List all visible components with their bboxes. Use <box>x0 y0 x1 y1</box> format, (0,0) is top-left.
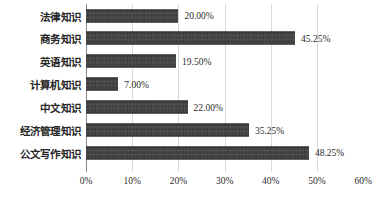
category-label: 英语知识 <box>40 54 81 69</box>
bar: 48.25% <box>86 146 309 159</box>
x-axis: 0% 10% 20% 30% 40% 50% 60% <box>0 176 384 192</box>
bar-value-label: 45.25% <box>301 33 330 43</box>
bar-row: 计算机知识 7.00% <box>86 73 384 96</box>
bar-value-label: 19.50% <box>182 56 211 66</box>
x-tick-label: 30% <box>216 176 233 186</box>
category-label: 商务知识 <box>40 31 81 46</box>
bar: 19.50% <box>86 55 176 68</box>
bar: 7.00% <box>86 78 118 91</box>
bar: 22.00% <box>86 101 188 114</box>
bar: 45.25% <box>86 32 295 45</box>
bar-value-label: 35.25% <box>255 125 284 135</box>
category-label: 经济管理知识 <box>20 123 81 138</box>
bar-row: 经济管理知识 35.25% <box>86 119 384 142</box>
bar: 20.00% <box>86 9 178 22</box>
bar-value-label: 7.00% <box>124 79 149 89</box>
bar-value-label: 22.00% <box>194 102 223 112</box>
x-tick-label: 0% <box>80 176 93 186</box>
bar-row: 英语知识 19.50% <box>86 50 384 73</box>
bar: 35.25% <box>86 124 249 137</box>
bar-value-label: 48.25% <box>315 148 344 158</box>
bar-row: 公文写作知识 48.25% <box>86 141 384 164</box>
bar-chart: 法律知识 20.00% 商务知识 45.25% 英语知识 19.50% 计算机知… <box>0 0 384 201</box>
category-label: 法律知识 <box>40 8 81 23</box>
x-tick-label: 10% <box>123 176 140 186</box>
category-label: 公文写作知识 <box>20 145 81 160</box>
bar-value-label: 20.00% <box>184 11 213 21</box>
bar-row: 中文知识 22.00% <box>86 96 384 119</box>
x-tick-label: 60% <box>354 176 371 186</box>
category-label: 计算机知识 <box>30 77 81 92</box>
x-tick-label: 20% <box>170 176 187 186</box>
bar-row: 商务知识 45.25% <box>86 27 384 50</box>
category-label: 中文知识 <box>40 100 81 115</box>
plot-area: 法律知识 20.00% 商务知识 45.25% 英语知识 19.50% 计算机知… <box>86 4 317 172</box>
x-tick-label: 40% <box>262 176 279 186</box>
x-tick-label: 50% <box>308 176 325 186</box>
bar-row: 法律知识 20.00% <box>86 4 384 27</box>
